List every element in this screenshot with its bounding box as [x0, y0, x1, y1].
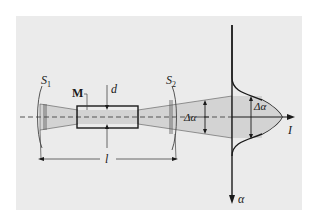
- label-divergence-mid: Δα: [183, 111, 196, 123]
- label-divergence-peak: Δα: [253, 100, 266, 112]
- label-diameter: d: [111, 82, 118, 96]
- beam-divergence-diagram: S1 S2 M d Δα Δα l I α: [0, 0, 317, 219]
- label-medium: M: [72, 86, 83, 100]
- label-angle-axis: α: [238, 192, 245, 206]
